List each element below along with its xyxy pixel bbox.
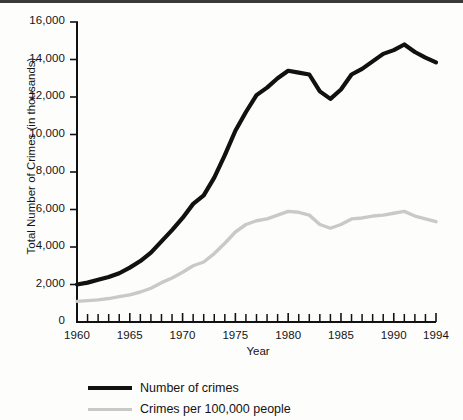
legend-label-number-of-crimes: Number of crimes [140,381,239,395]
series-line-crimes-per-100000 [77,211,436,301]
y-tick-label: 16,000 [0,14,65,26]
x-tick-label: 1980 [258,329,318,341]
x-tick-label: 1970 [153,329,213,341]
series-line-number-of-crimes [77,45,436,285]
axis-spine [77,22,436,322]
legend-item-number-of-crimes: Number of crimes [88,381,239,395]
legend-swatch-black-line [88,386,132,390]
x-axis-title: Year [196,345,320,357]
legend-item-crimes-per-100000: Crimes per 100,000 people [88,402,291,416]
line-chart-plot-area [0,0,463,420]
x-tick-label: 1960 [47,329,107,341]
y-axis-title: Total Number of Crimes (in thousands) [25,41,37,271]
legend-label-crimes-per-100000: Crimes per 100,000 people [140,402,291,416]
x-tick-label: 1975 [205,329,265,341]
legend-swatch-gray-line [88,408,132,411]
x-axis-ticks [77,313,436,322]
y-tick-label: 2,000 [0,277,65,289]
x-tick-label: 1965 [100,329,160,341]
x-tick-label: 1985 [311,329,371,341]
y-tick-label: 0 [0,314,65,326]
chart-figure: 02,0004,0006,0008,00010,00012,00014,0001… [0,0,463,420]
x-tick-label: 1994 [406,329,463,341]
